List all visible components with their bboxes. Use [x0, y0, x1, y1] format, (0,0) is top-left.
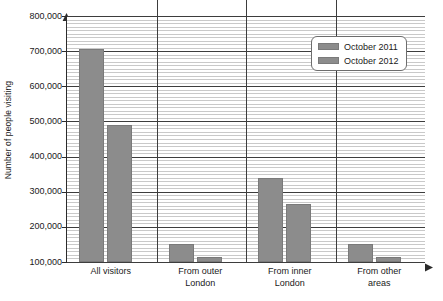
x-axis-category-label-line: areas — [335, 278, 425, 290]
y-axis-tick-label: 100,000 — [14, 258, 62, 267]
x-axis-category-label: All visitors — [66, 266, 156, 278]
bar — [258, 178, 283, 262]
y-axis-tick-label: 400,000 — [14, 152, 62, 161]
legend-label-october-2011: October 2011 — [344, 42, 398, 52]
legend-item: October 2011 — [318, 41, 399, 52]
x-axis-category-label-line: From outer — [156, 266, 246, 278]
x-axis-category-label-line: London — [245, 278, 335, 290]
y-axis-tick-label: 300,000 — [14, 187, 62, 196]
x-axis-category-label: From otherareas — [335, 266, 425, 289]
y-axis-tick-labels: 800,000700,000600,000500,000400,000300,0… — [12, 0, 62, 301]
bar — [348, 244, 373, 262]
x-axis-category-label: From innerLondon — [245, 266, 335, 289]
legend-swatch-october-2011 — [318, 43, 339, 50]
x-axis-category-label-line: London — [156, 278, 246, 290]
y-axis-tick-mark — [62, 262, 67, 263]
y-axis-tick-label: 800,000 — [14, 12, 62, 21]
y-axis-tick-label: 500,000 — [14, 117, 62, 126]
legend-item: October 2012 — [318, 55, 399, 66]
gridline-major — [67, 262, 425, 263]
x-axis-category-labels: All visitorsFrom outerLondonFrom innerLo… — [66, 266, 424, 301]
x-axis-arrow-icon — [424, 258, 433, 267]
legend-label-october-2012: October 2012 — [344, 56, 399, 66]
x-axis-category-label-line: All visitors — [66, 266, 156, 278]
bar — [376, 257, 401, 262]
legend: October 2011 October 2012 — [311, 36, 407, 71]
y-axis-tick-label: 200,000 — [14, 222, 62, 231]
bar — [107, 125, 132, 262]
x-axis-category-label-line: From inner — [245, 266, 335, 278]
x-axis-category-label: From outerLondon — [156, 266, 246, 289]
y-axis-tick-label: 600,000 — [14, 82, 62, 91]
legend-swatch-october-2012 — [318, 57, 339, 64]
bar — [79, 49, 104, 262]
bar — [286, 204, 311, 262]
bar — [197, 257, 222, 262]
bar — [169, 244, 194, 262]
x-axis-category-label-line: From other — [335, 266, 425, 278]
bar-chart: Number of people visiting 800,000700,000… — [0, 0, 443, 301]
y-axis-tick-label: 700,000 — [14, 47, 62, 56]
